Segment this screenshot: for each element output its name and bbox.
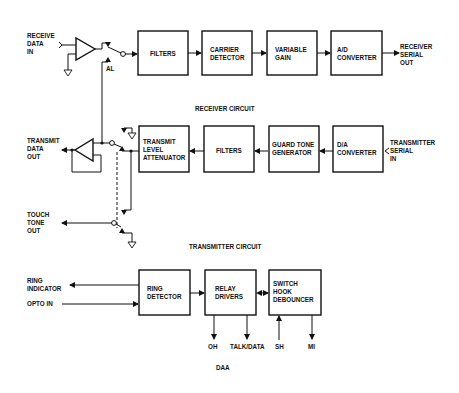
guard-tone-label-1: GUARD TONE <box>272 141 314 148</box>
carrier-detector-label-2: DETECTOR <box>210 54 245 61</box>
receive-opamp-icon <box>76 38 95 60</box>
daa-section: RING INDICATOR OPTO IN RING DETECTOR REL… <box>27 270 321 371</box>
ground-icon <box>128 133 136 139</box>
transmitter-serial-in-label-1: TRANSMITTER <box>390 139 436 146</box>
transmitter-serial-in-label-2: SERIAL <box>390 147 413 154</box>
transmit-data-out-label-3: OUT <box>27 153 40 160</box>
ground-icon <box>128 242 136 248</box>
opto-in-label: OPTO IN <box>27 300 53 307</box>
ad-converter-block <box>331 31 382 75</box>
mi-signal-label: MI <box>308 343 315 350</box>
ring-detector-label-1: RING <box>147 285 163 292</box>
attenuator-label-3: ATTENUATOR <box>143 154 186 161</box>
relay-drivers-label-2: DRIVERS <box>215 293 243 300</box>
carrier-detector-label-1: CARRIER <box>210 46 239 53</box>
da-converter-label-1: D/A <box>337 141 348 148</box>
receiver-filters-label: FILTERS <box>150 50 176 57</box>
switch-hook-label-3: DEBOUNCER <box>273 296 314 303</box>
attenuator-label-1: TRANSMIT <box>143 138 176 145</box>
transmitter-serial-in-label-3: IN <box>390 155 397 162</box>
switch-hook-label-1: SWITCH <box>273 280 298 287</box>
switch-hook-label-2: HOOK <box>273 288 292 295</box>
touch-tone-out-label-1: TOUCH <box>27 211 50 218</box>
guard-tone-label-2: GENERATOR <box>272 149 312 156</box>
receive-data-in-label-1: RECEIVE <box>27 32 55 39</box>
touch-tone-out-label-2: TONE <box>27 219 44 226</box>
ground-icon <box>64 70 72 76</box>
carrier-detector-block <box>202 31 252 75</box>
receiver-serial-out-label-2: SERIAL <box>400 51 423 58</box>
receiver-serial-out-label-1: RECEIVER <box>400 43 433 50</box>
input-connector-icon <box>59 42 62 48</box>
al-label: AL <box>106 65 115 72</box>
variable-gain-label-1: VARIABLE <box>275 46 307 53</box>
touch-tone-switch-pivot-icon <box>112 221 117 226</box>
al-contact-icon <box>105 57 111 62</box>
transmitter-circuit-title: TRANSMITTER CIRCUIT <box>189 243 262 250</box>
talk-data-signal-label: TALK/DATA <box>230 343 265 350</box>
modem-block-diagram: RECEIVE DATA IN AL FILTERS CARRIER DETEC… <box>0 0 459 393</box>
ad-converter-label-1: A/D <box>337 46 348 53</box>
receive-data-in-label-2: DATA <box>27 40 44 47</box>
sh-signal-label: SH <box>275 343 284 350</box>
switch-pivot-icon <box>121 52 126 57</box>
transmitter-filters-label: FILTERS <box>216 147 242 154</box>
daa-title: DAA <box>216 364 230 371</box>
transmit-opamp-icon <box>75 139 93 161</box>
receiver-serial-out-label-3: OUT <box>400 59 413 66</box>
ring-indicator-label-2: INDICATOR <box>27 285 62 292</box>
attenuator-label-2: LEVEL <box>143 146 163 153</box>
touch-tone-out-label-3: OUT <box>27 227 40 234</box>
transmit-data-out-label-1: TRANSMIT <box>27 137 60 144</box>
da-converter-label-2: CONVERTER <box>337 149 377 156</box>
ring-indicator-label-1: RING <box>27 277 43 284</box>
receiver-circuit-title: RECEIVER CIRCUIT <box>195 105 255 112</box>
transmit-switch-pivot-icon <box>110 141 115 146</box>
ring-detector-label-2: DETECTOR <box>147 293 182 300</box>
oh-signal-label: OH <box>208 343 218 350</box>
transmit-data-out-label-2: DATA <box>27 145 44 152</box>
receive-data-in-label-3: IN <box>27 48 34 55</box>
switch-contact-icon <box>105 42 111 47</box>
transmitter-section: TRANSMIT DATA OUT TRANSMIT LEVEL <box>27 126 436 250</box>
input-connector-icon <box>385 148 389 154</box>
variable-gain-block <box>267 31 317 75</box>
variable-gain-label-2: GAIN <box>275 54 291 61</box>
relay-drivers-label-1: RELAY <box>215 285 237 292</box>
ad-converter-label-2: CONVERTER <box>337 54 377 61</box>
